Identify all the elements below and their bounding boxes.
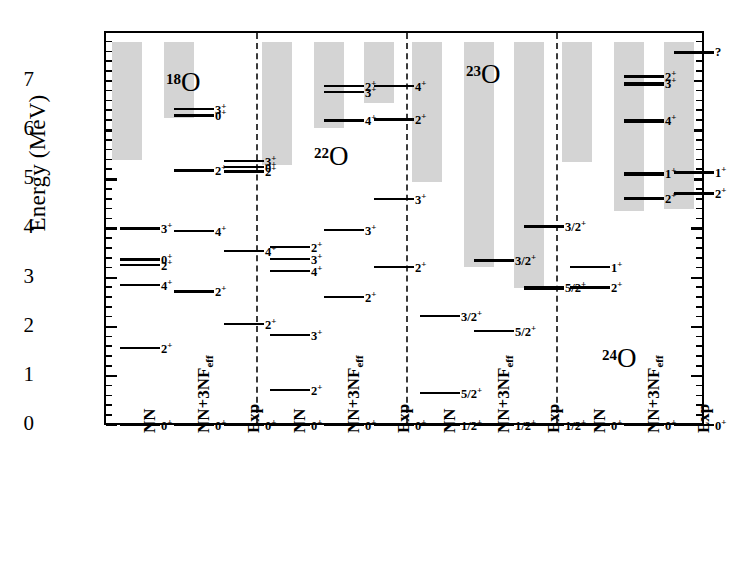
y-axis-tick-label: 1	[0, 363, 34, 384]
y-axis-minor-tick	[696, 218, 702, 220]
energy-level-bar	[324, 85, 364, 87]
uncertainty-band	[112, 42, 142, 160]
y-axis-minor-tick	[106, 404, 112, 406]
energy-level-label: 2+	[365, 290, 376, 305]
y-axis-tick-label: 7	[0, 69, 34, 90]
y-axis-minor-tick	[106, 267, 112, 269]
y-axis-minor-tick	[106, 168, 112, 170]
y-axis-minor-tick	[106, 306, 112, 308]
energy-level-label: 2+	[715, 186, 726, 201]
energy-level-bar	[624, 197, 664, 200]
y-axis-minor-tick	[106, 208, 112, 210]
isotope-title: 23O	[466, 59, 501, 90]
column-caption-nn: NN	[440, 408, 460, 433]
column-caption-nn-3nf: NN+3NFeff	[344, 355, 365, 433]
y-axis-minor-tick	[696, 237, 702, 239]
energy-level-bar	[270, 270, 310, 272]
energy-level-label: 5/2+	[515, 323, 536, 338]
energy-level-bar	[474, 330, 514, 332]
energy-level-bar	[524, 286, 564, 289]
y-axis-major-tick	[691, 227, 702, 229]
y-axis-minor-tick	[696, 198, 702, 200]
y-axis-minor-tick	[696, 188, 702, 190]
energy-level-label: 0+	[215, 108, 226, 123]
energy-level-label: 2+	[611, 280, 622, 295]
column-caption-nn: NN	[140, 408, 160, 433]
energy-level-bar	[374, 266, 414, 268]
y-axis-major-tick	[691, 277, 702, 279]
energy-level-bar	[570, 286, 610, 288]
energy-level-label: 3+	[311, 328, 322, 343]
y-axis-minor-tick	[696, 267, 702, 269]
energy-level-bar	[420, 392, 460, 394]
energy-level-label: 4+	[415, 79, 426, 94]
y-axis-minor-tick	[696, 316, 702, 318]
isotope-element-symbol: O	[481, 59, 501, 89]
column-caption-exp: Exp	[244, 404, 264, 433]
y-axis-minor-tick	[696, 139, 702, 141]
energy-level-label: 0+	[311, 418, 322, 433]
column-caption-exp: Exp	[694, 404, 714, 433]
y-axis-minor-tick	[696, 336, 702, 338]
energy-level-bar	[324, 91, 364, 93]
energy-level-bar	[224, 323, 264, 325]
energy-level-bar	[374, 118, 414, 120]
energy-level-bar	[324, 296, 364, 298]
isotope-mass-number: 24	[602, 347, 617, 363]
energy-level-bar	[324, 119, 364, 121]
y-axis-tick-label: 2	[0, 314, 34, 335]
energy-level-bar	[420, 315, 460, 317]
energy-level-label: 5/2+	[461, 386, 482, 401]
uncertainty-band	[262, 42, 292, 165]
energy-level-label: 3+	[665, 76, 676, 91]
energy-level-bar	[624, 172, 664, 175]
energy-level-label: 3/2+	[461, 309, 482, 324]
energy-level-bar	[374, 198, 414, 200]
y-axis-major-tick	[691, 375, 702, 377]
energy-level-bar	[174, 114, 214, 116]
y-axis-minor-tick	[696, 257, 702, 259]
energy-level-bar	[224, 166, 264, 168]
uncertainty-band	[514, 42, 544, 289]
y-axis-minor-tick	[696, 149, 702, 151]
y-axis-minor-tick	[106, 345, 112, 347]
y-axis-tick-label: 6	[0, 118, 34, 139]
energy-level-figure: Energy (MeV) 3+0+2+4+2+0+3+0+2+4+2+0+3+0…	[0, 0, 741, 569]
y-axis-minor-tick	[106, 286, 112, 288]
energy-level-label: 2+	[415, 112, 426, 127]
y-axis-minor-tick	[696, 60, 702, 62]
energy-level-label: 0+	[715, 418, 726, 433]
uncertainty-band	[562, 42, 592, 162]
y-axis-minor-tick	[696, 306, 702, 308]
energy-level-label: 4+	[215, 224, 226, 239]
y-axis-minor-tick	[696, 109, 702, 111]
column-caption-nn: NN	[590, 408, 610, 433]
energy-level-label: 2+	[161, 341, 172, 356]
y-axis-minor-tick	[696, 296, 702, 298]
y-axis-tick-label: 5	[0, 167, 34, 188]
energy-level-label: 4+	[311, 264, 322, 279]
energy-level-label: ?	[715, 45, 721, 58]
column-caption-exp: Exp	[544, 404, 564, 433]
y-axis-minor-tick	[696, 208, 702, 210]
column-caption-nn-3nf: NN+3NFeff	[644, 355, 665, 433]
isotope-mass-number: 18	[166, 71, 181, 87]
isotope-title: 18O	[166, 67, 201, 98]
energy-level-bar	[174, 169, 214, 171]
y-axis-minor-tick	[696, 247, 702, 249]
y-axis-minor-tick	[696, 100, 702, 102]
energy-level-bar	[224, 250, 264, 252]
energy-level-bar	[224, 170, 264, 172]
isotope-mass-number: 22	[314, 145, 329, 161]
y-axis-tick-label: 3	[0, 265, 34, 286]
y-axis-minor-tick	[696, 70, 702, 72]
uncertainty-band	[614, 42, 644, 212]
energy-level-label: 1+	[611, 259, 622, 274]
energy-level-bar	[224, 160, 264, 162]
energy-level-bar	[674, 192, 714, 195]
panel-separator	[256, 33, 258, 423]
energy-level-label: 2+	[161, 258, 172, 273]
energy-level-bar	[120, 258, 160, 260]
energy-level-label: 0+	[161, 418, 172, 433]
energy-level-bar	[174, 230, 214, 232]
